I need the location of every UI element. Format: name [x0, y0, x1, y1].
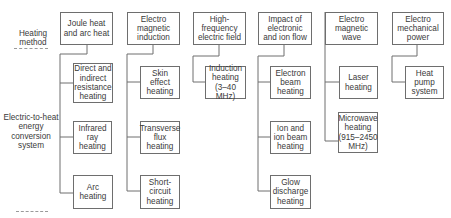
heating-method-label: Heating method — [12, 29, 54, 48]
method-ion-beam: Ion and ion beam heating — [270, 121, 311, 154]
method-transverse-flux: Transverse flux heating — [140, 121, 180, 154]
category-joule-arc-heat: Joule heat and arc heat — [60, 12, 113, 45]
method-arc-heating: Arc heating — [73, 175, 113, 209]
method-induction-heating: Induction heating (3–40 MHz) — [205, 66, 246, 99]
method-infrared-ray: Infrared ray heating — [73, 121, 112, 154]
method-electron-beam: Electron beam heating — [270, 66, 311, 99]
method-laser-heating: Laser heating — [339, 66, 378, 99]
method-short-circuit: Short-circuit heating — [140, 175, 180, 209]
method-skin-effect: Skin effect heating — [140, 66, 180, 99]
method-direct-indirect-resistance: Direct and indirect resistance heating — [73, 63, 113, 103]
method-heat-pump: Heat pump system — [405, 66, 444, 99]
method-microwave-heating: Microwave heating (915–2450 MHz) — [338, 112, 378, 153]
category-electron-ion-flow: Impact of electronic and ion flow — [258, 12, 312, 45]
heating-method-divider — [14, 48, 48, 49]
category-electro-mechanical-power: Electro mechanical power — [392, 12, 444, 45]
root-label: Electric-to-heat energy conversion syste… — [2, 113, 60, 150]
category-electromagnetic-induction: Electro magnetic induction — [127, 12, 180, 45]
method-glow-discharge: Glow discharge heating — [270, 175, 311, 209]
category-high-frequency-electric-field: High-frequency electric field — [193, 12, 246, 45]
category-electromagnetic-wave: Electro magnetic wave — [325, 12, 378, 45]
bottom-divider — [16, 211, 48, 212]
